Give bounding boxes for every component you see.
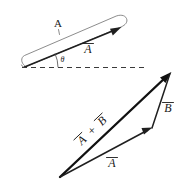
- vector-a-bottom-arrowhead: [142, 128, 153, 135]
- vector-a-top-shaft: [25, 30, 116, 67]
- magnitude-label-a: A: [54, 17, 62, 29]
- vector-b-label-group: B: [163, 101, 174, 115]
- vector-a-top-arrowhead: [110, 27, 122, 36]
- vector-diagram-figure: A A θ A + B: [0, 0, 185, 184]
- bottom-panel-group: A + B B A: [60, 72, 174, 177]
- angle-arc: [55, 54, 58, 68]
- magnitude-loop-brace: [22, 15, 127, 67]
- vector-b-label: B: [164, 101, 172, 115]
- magnitude-label-tick: [59, 30, 60, 35]
- resultant-label-group: A + B: [73, 112, 111, 149]
- vector-a-bottom-label: A: [107, 156, 116, 170]
- vector-a-top-label: A: [83, 42, 92, 56]
- resultant-label-plus: +: [84, 123, 100, 139]
- vector-diagram-canvas: A A θ A + B: [0, 0, 185, 184]
- angle-label-theta: θ: [61, 55, 65, 64]
- vector-a-top-label-group: A: [83, 42, 94, 56]
- vector-a-bottom-label-group: A: [107, 156, 118, 170]
- top-panel-group: A A θ: [22, 15, 147, 67]
- resultant-label-b: B: [94, 113, 109, 129]
- resultant-label-a: A: [73, 132, 89, 148]
